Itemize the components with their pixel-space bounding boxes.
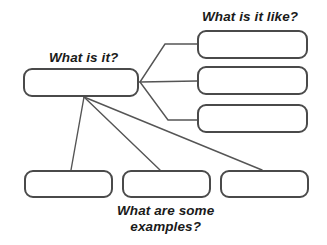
connector-main-to-attribute-1 bbox=[140, 44, 197, 82]
example-box-1[interactable] bbox=[24, 170, 113, 198]
example-box-2[interactable] bbox=[122, 170, 211, 198]
examples-heading-line-1: What are some bbox=[117, 203, 214, 218]
attributes-heading-label: What is it like? bbox=[202, 9, 298, 25]
attribute-box-1[interactable] bbox=[197, 30, 308, 59]
attribute-box-2[interactable] bbox=[197, 66, 308, 95]
examples-heading-label: What are someexamples? bbox=[117, 203, 214, 235]
connector-main-to-example-2 bbox=[84, 97, 160, 170]
connector-main-to-attribute-3 bbox=[140, 82, 197, 120]
examples-heading-line-2: examples? bbox=[117, 219, 214, 235]
connector-main-to-attribute-2 bbox=[140, 81, 197, 82]
main-concept-label: What is it? bbox=[49, 50, 118, 66]
attribute-box-3[interactable] bbox=[197, 104, 308, 133]
main-concept-box[interactable] bbox=[23, 68, 139, 97]
connector-main-to-example-1 bbox=[71, 97, 84, 170]
example-box-3[interactable] bbox=[220, 170, 309, 198]
concept-map-canvas: What is it? What is it like? What are so… bbox=[0, 0, 327, 245]
